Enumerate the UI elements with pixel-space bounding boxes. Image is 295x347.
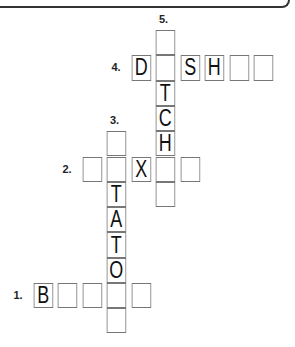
crossword-cell[interactable] (131, 283, 150, 308)
cell-letter: X (135, 156, 147, 183)
crossword-cell[interactable]: H (205, 55, 224, 80)
crossword-cell[interactable] (156, 182, 175, 207)
crossword-cell[interactable] (82, 157, 101, 182)
cell-letter: O (109, 257, 123, 284)
clue-number-5: 5. (159, 13, 168, 25)
cell-letter: C (159, 105, 172, 132)
crossword-cell[interactable] (107, 157, 126, 182)
crossword-cell[interactable]: D (131, 55, 150, 80)
cell-letter: B (37, 282, 49, 309)
cell-letter: T (111, 181, 122, 208)
crossword-cell[interactable]: C (156, 106, 175, 131)
crossword-cell[interactable]: B (33, 283, 52, 308)
crossword-cell[interactable] (180, 157, 199, 182)
clue-number-3: 3. (110, 114, 119, 126)
crossword-cell[interactable]: T (107, 182, 126, 207)
crossword-cell[interactable] (156, 30, 175, 55)
cell-letter: T (111, 232, 122, 259)
crossword-cell[interactable]: T (156, 81, 175, 106)
crossword-cell[interactable] (254, 55, 273, 80)
crossword-cell[interactable]: O (107, 258, 126, 283)
crossword-cell[interactable]: T (107, 232, 126, 257)
cell-letter: A (110, 206, 122, 233)
cell-letter: D (134, 54, 147, 81)
crossword-cell[interactable] (156, 157, 175, 182)
clue-number-2: 2. (63, 163, 72, 175)
crossword-grid: DSHTCHXTATOB1.2.3.4.5. (0, 0, 295, 347)
crossword-cell[interactable] (82, 283, 101, 308)
crossword-cell[interactable]: X (131, 157, 150, 182)
cell-letter: T (160, 80, 171, 107)
crossword-cell[interactable] (58, 283, 77, 308)
clue-number-1: 1. (14, 289, 23, 301)
cell-letter: S (184, 54, 196, 81)
crossword-cell[interactable] (107, 283, 126, 308)
crossword-cell[interactable] (107, 308, 126, 333)
cell-letter: H (208, 54, 221, 81)
crossword-cell[interactable]: A (107, 207, 126, 232)
crossword-cell[interactable] (229, 55, 248, 80)
cell-letter: H (159, 130, 172, 157)
crossword-cell[interactable] (156, 55, 175, 80)
crossword-cell[interactable]: S (180, 55, 199, 80)
crossword-cell[interactable]: H (156, 131, 175, 156)
clue-number-4: 4. (112, 61, 121, 73)
crossword-cell[interactable] (107, 131, 126, 156)
